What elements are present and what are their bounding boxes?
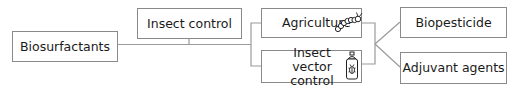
- node-biopesticide: Biopesticide: [400, 7, 507, 38]
- node-label: Adjuvant agents: [402, 61, 504, 75]
- node-biosurfactants: Biosurfactants: [12, 31, 118, 62]
- node-insect-control: Insect control: [137, 8, 242, 39]
- node-label: Biosurfactants: [20, 40, 110, 54]
- caterpillar-icon: [334, 10, 364, 34]
- node-label: Insect control: [147, 17, 232, 31]
- node-adjuvant-agents: Adjuvant agents: [400, 52, 507, 84]
- insecticide-spray-can-icon: [344, 51, 360, 81]
- node-label: Insect vector control: [276, 46, 348, 88]
- node-label: Biopesticide: [415, 16, 491, 30]
